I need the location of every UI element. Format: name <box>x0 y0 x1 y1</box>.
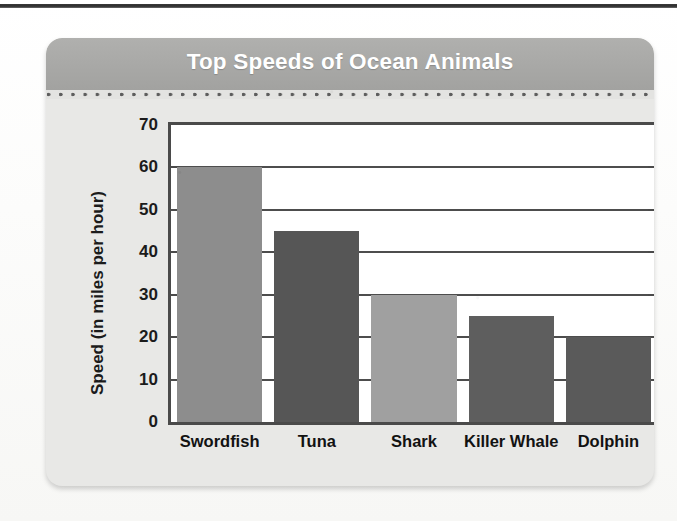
bar <box>177 167 262 422</box>
chart-card: Top Speeds of Ocean Animals Speed (in mi… <box>46 38 654 486</box>
x-axis-tick-label: Tuna <box>298 432 336 451</box>
dotted-divider <box>46 90 654 99</box>
page-top-rule <box>0 4 677 8</box>
x-axis-tick-label: Swordfish <box>180 432 260 451</box>
y-axis-tick-label: 30 <box>116 285 158 305</box>
y-axis-tick-label: 50 <box>116 200 158 220</box>
chart-title-bar: Top Speeds of Ocean Animals <box>46 38 654 90</box>
plot-area <box>168 122 654 425</box>
x-axis-tick-label: Killer Whale <box>464 432 558 451</box>
y-axis-tick-label: 0 <box>116 412 158 432</box>
bar <box>566 337 651 422</box>
y-axis-tick-label: 70 <box>116 115 158 135</box>
bar <box>469 316 554 422</box>
x-axis-tick-label: Dolphin <box>578 432 639 451</box>
y-axis-tick-label: 20 <box>116 327 158 347</box>
bar <box>274 231 359 422</box>
y-axis-tick-label: 10 <box>116 370 158 390</box>
y-axis-title: Speed (in miles per hour) <box>88 191 108 395</box>
chart-title: Top Speeds of Ocean Animals <box>46 49 654 75</box>
x-axis-tick-label: Shark <box>391 432 437 451</box>
x-axis-title: Animal <box>168 485 654 486</box>
y-axis-tick-label: 60 <box>116 157 158 177</box>
y-axis-tick-label: 40 <box>116 242 158 262</box>
bar <box>371 295 456 422</box>
bar-series <box>171 125 654 422</box>
